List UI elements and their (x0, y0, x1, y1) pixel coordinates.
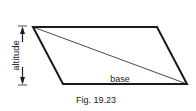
figure-canvas: altitude base Fig. 19.23 (0, 0, 196, 111)
base-label: base (110, 74, 130, 84)
arrow-up-icon (20, 27, 25, 35)
arrow-down-icon (20, 77, 25, 85)
altitude-label: altitude (10, 40, 21, 71)
figure-caption: Fig. 19.23 (76, 95, 116, 105)
altitude-dimension: altitude (10, 26, 27, 85)
